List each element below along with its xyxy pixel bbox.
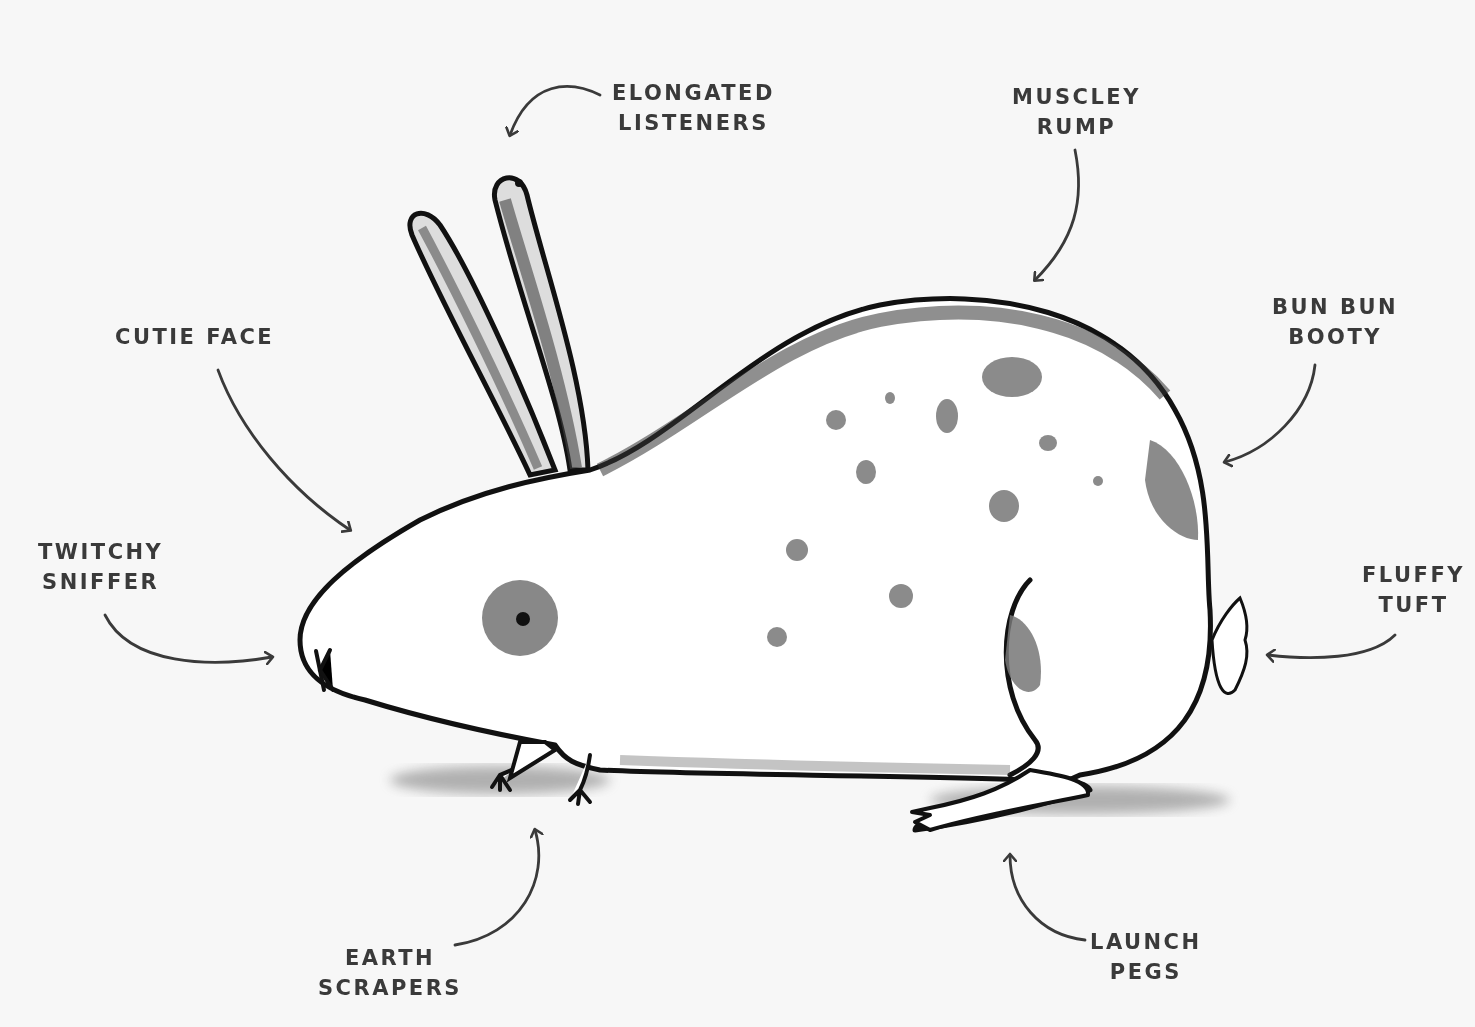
label-bun-bun-booty: bun bun booty (1272, 292, 1398, 352)
label-line: rump (1012, 112, 1141, 142)
arrow-tail (1268, 635, 1395, 658)
label-line: twitchy (38, 537, 163, 567)
label-line: bun bun (1272, 292, 1398, 322)
rabbit-diagram (0, 0, 1475, 1027)
arrow-face (218, 370, 350, 530)
label-line: fluffy (1362, 560, 1465, 590)
arrow-hind-foot (1010, 855, 1085, 940)
arrow-booty (1225, 365, 1315, 462)
arrow-rump (1035, 150, 1079, 280)
rabbit-body (300, 299, 1210, 830)
label-twitchy-sniffer: twitchy sniffer (38, 537, 163, 597)
arrow-nose (105, 615, 272, 662)
label-line: muscley (1012, 82, 1141, 112)
label-fluffy-tuft: fluffy tuft (1362, 560, 1465, 620)
label-line: scrapers (318, 973, 462, 1003)
rabbit-ears (410, 178, 588, 475)
label-line: booty (1272, 322, 1398, 352)
label-line: elongated (612, 78, 775, 108)
label-launch-pegs: launch pegs (1090, 927, 1202, 987)
label-elongated-listeners: elongated listeners (612, 78, 775, 138)
label-earth-scrapers: earth scrapers (318, 943, 462, 1003)
label-line: launch (1090, 927, 1202, 957)
label-line: pegs (1090, 957, 1202, 987)
label-line: listeners (612, 108, 775, 138)
rabbit-tail (1212, 598, 1247, 693)
arrow-ears (510, 86, 600, 135)
label-line: sniffer (38, 567, 163, 597)
label-line: cutie face (115, 322, 274, 352)
label-line: earth (318, 943, 462, 973)
label-line: tuft (1362, 590, 1465, 620)
label-muscley-rump: muscley rump (1012, 82, 1141, 142)
rabbit-eye (482, 580, 558, 656)
label-cutie-face: cutie face (115, 322, 274, 352)
arrow-front-paws (455, 830, 539, 945)
